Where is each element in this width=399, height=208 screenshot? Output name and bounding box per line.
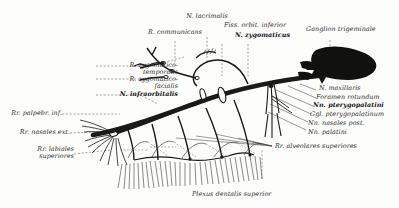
rami-nasales-externi bbox=[85, 135, 112, 153]
label-n-maxillaris: N. maxillaris bbox=[319, 85, 361, 92]
label-plexus-dentalis-superior: Plexus dentalis superior bbox=[192, 191, 332, 198]
label-nn-palatini: Nn. palatini bbox=[308, 129, 347, 136]
label-rr-labiales-superiores: Rr. labialessuperiores bbox=[8, 146, 74, 160]
label-ggl-pterygopalatinum: Ggl. pterygopalatinum bbox=[310, 111, 384, 118]
leader-lines bbox=[62, 37, 330, 179]
label-rr-alveolares-superiores: Rr. alveolares superiores bbox=[275, 143, 357, 150]
ganglion-trigeminale bbox=[298, 46, 376, 84]
label-rr-nasales-externi: Rr. nasales ext. bbox=[0, 129, 70, 136]
label-line: facialis bbox=[155, 82, 178, 90]
nervus-infraorbitalis bbox=[118, 100, 205, 132]
label-n-zygomaticus: N. zygomaticus bbox=[235, 32, 290, 39]
label-rr-palpebrales-inferiores: Rr. palpebr. inf. bbox=[0, 110, 62, 117]
rami-alveolares-superiores bbox=[128, 100, 250, 160]
label-r-zygomatico-facialis: R. zygomatico-facialis bbox=[86, 76, 178, 90]
label-fissura-orbitalis-inferior: Fiss. orbit. inferior bbox=[224, 22, 286, 29]
maxillary-teeth-roots bbox=[118, 156, 262, 189]
label-nn-pterygopalatini: Nn. pterygopalatini bbox=[313, 102, 384, 109]
label-ganglion-trigeminale: Ganglion trigeminale bbox=[306, 26, 376, 33]
label-n-infraorbitalis: N. infraorbitalis bbox=[86, 91, 178, 98]
label-line: superiores bbox=[39, 152, 74, 160]
label-n-lacrimalis: N. lacrimalis bbox=[172, 13, 242, 20]
label-r-communicans: R. communicans bbox=[130, 29, 220, 36]
anatomical-figure: R. zygomatico-temporalis R. zygomatico-f… bbox=[0, 0, 399, 208]
fissura-orbitalis-inferior bbox=[217, 86, 227, 103]
nervus-zygomaticus bbox=[193, 60, 248, 86]
nervi-nasales-posteriores bbox=[272, 96, 292, 113]
rami-labiales-superiores bbox=[100, 137, 127, 166]
ganglion-pterygopalatinum bbox=[268, 84, 273, 88]
label-nn-nasales-posteriores: Nn. nasales post. bbox=[308, 120, 365, 127]
rami-palpebrales-inferiores bbox=[80, 120, 110, 133]
nervus-lacrimalis bbox=[196, 48, 216, 58]
